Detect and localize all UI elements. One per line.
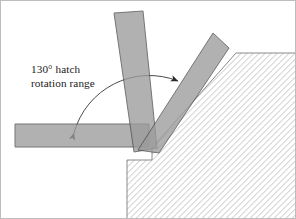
annotation-line-2: rotation range xyxy=(31,77,95,89)
horizontal-bar-body xyxy=(15,124,149,147)
hatch-rotation-figure: 130° hatch rotation range xyxy=(0,0,296,219)
diagram-canvas: 130° hatch rotation range xyxy=(0,0,296,219)
horizontal-bar xyxy=(15,124,149,147)
annotation-line-1: 130° hatch xyxy=(31,63,81,75)
